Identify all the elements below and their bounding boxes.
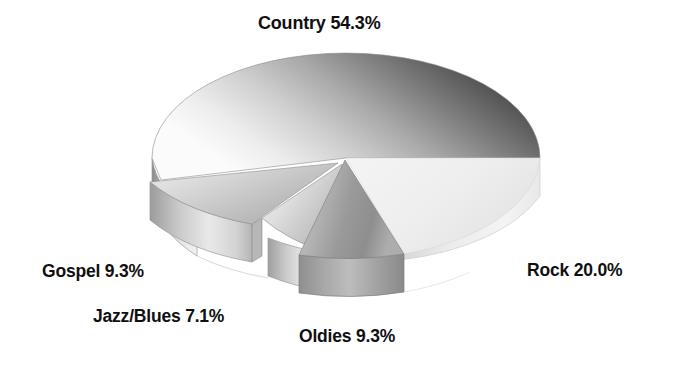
pie-label-jazz-blues: Jazz/Blues 7.1% <box>93 308 224 326</box>
pie-label-rock: Rock 20.0% <box>527 262 622 280</box>
pie-label-country: Country 54.3% <box>258 14 380 32</box>
pie-slice-oldies-wall <box>299 254 404 296</box>
pie-label-gospel: Gospel 9.3% <box>42 263 144 281</box>
pie-chart: Country 54.3% Rock 20.0% Oldies 9.3% Jaz… <box>0 0 688 376</box>
pie-label-oldies: Oldies 9.3% <box>299 328 395 346</box>
